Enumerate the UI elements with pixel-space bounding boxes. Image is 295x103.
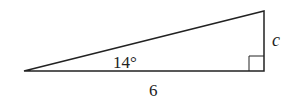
right-angle-marker xyxy=(249,56,264,71)
angle-label: 14° xyxy=(113,53,137,72)
triangle-outline xyxy=(24,11,264,71)
base-length-label: 6 xyxy=(149,81,158,100)
right-triangle-diagram: 14° 6 c xyxy=(0,0,295,103)
opposite-side-label: c xyxy=(272,30,280,50)
